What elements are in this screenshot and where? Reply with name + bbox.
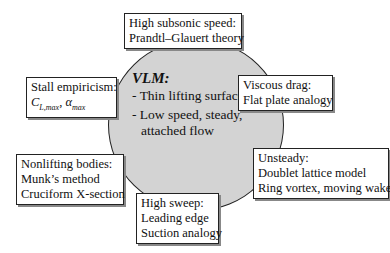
box-viscous-drag: Viscous drag: Flat plate analogy	[238, 75, 333, 111]
box-high-sweep-line3: Suction analogy	[141, 226, 214, 241]
box-viscous-line1: Viscous drag:	[243, 78, 328, 93]
box-high-subsonic-line1: High subsonic speed:	[129, 16, 237, 31]
vlm-item-low-speed: - Low speed, steady, attached flow	[132, 107, 272, 139]
cl-subscript: L,max	[39, 103, 59, 112]
box-high-sweep: High sweep: Leading edge Suction analogy	[136, 193, 219, 244]
box-high-sweep-line2: Leading edge	[141, 211, 214, 226]
box-viscous-line2: Flat plate analogy	[243, 93, 328, 108]
box-nonlifting-line1: Nonlifting bodies:	[21, 157, 119, 172]
box-stall-empiricism: Stall empiricism: CL,max, αmax	[26, 77, 117, 118]
box-high-subsonic-line2: Prandtl–Glauert theory	[129, 31, 237, 46]
box-unsteady-line3: Ring vortex, moving wake	[258, 181, 384, 196]
box-high-subsonic: High subsonic speed: Prandtl–Glauert the…	[124, 13, 242, 49]
box-unsteady: Unsteady: Doublet lattice model Ring vor…	[253, 148, 389, 199]
box-high-sweep-line1: High sweep:	[141, 196, 214, 211]
box-stall-line1: Stall empiricism:	[31, 80, 112, 95]
alpha-subscript: max	[72, 103, 85, 112]
box-unsteady-line2: Doublet lattice model	[258, 166, 384, 181]
box-unsteady-line1: Unsteady:	[258, 151, 384, 166]
box-nonlifting-bodies: Nonlifting bodies: Munk’s method Crucifo…	[16, 154, 124, 205]
box-stall-line2: CL,max, αmax	[31, 95, 112, 115]
box-nonlifting-line2: Munk’s method	[21, 172, 119, 187]
box-nonlifting-line3: Cruciform X-section	[21, 187, 119, 202]
